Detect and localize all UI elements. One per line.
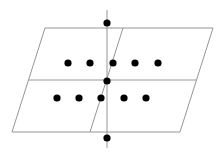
divider-lines [29,10,197,148]
lower-row-dot-3 [97,94,104,101]
upper-row-dot-1 [64,59,71,66]
lower-row-dot-4 [120,94,127,101]
lattice-diagram [0,0,223,157]
axis-bottom-dot [103,134,110,141]
lower-row-dot-5 [142,94,149,101]
upper-row-dot-5 [154,59,161,66]
lower-row-dot-1 [53,94,60,101]
center-dot [103,77,110,84]
upper-row-dot-4 [131,59,138,66]
lower-row-dot-2 [75,94,82,101]
upper-row-dot-3 [109,59,116,66]
axis-top-dot [103,19,110,26]
upper-row-dot-2 [86,59,93,66]
lattice-dots [53,19,161,141]
